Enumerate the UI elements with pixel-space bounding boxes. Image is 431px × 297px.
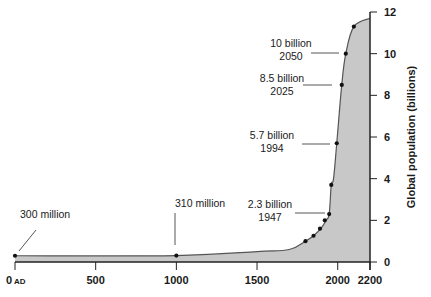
x-tick-label: 500 — [87, 274, 105, 286]
population-chart: 0AD5001000150020002200024681012 300 mill… — [0, 0, 431, 297]
annotation-year: 1947 — [258, 211, 282, 223]
x-tick-suffix: AD — [14, 277, 26, 286]
data-point — [318, 227, 322, 231]
data-point — [323, 218, 327, 222]
x-tick-label: 1500 — [245, 274, 269, 286]
y-tick-label: 10 — [384, 48, 396, 60]
y-tick-label: 4 — [384, 173, 391, 185]
data-point — [311, 234, 315, 238]
annotation-value: 310 million — [175, 197, 225, 209]
data-point — [335, 141, 339, 145]
area-fill — [15, 18, 370, 262]
data-point — [13, 254, 17, 258]
annotation-year: 2025 — [270, 85, 294, 97]
y-tick-label: 12 — [384, 6, 396, 18]
annotation-value: 300 million — [20, 208, 70, 220]
x-tick-label: 2200 — [358, 274, 382, 286]
data-point — [303, 239, 307, 243]
y-tick-label: 0 — [384, 256, 390, 268]
y-tick-label: 8 — [384, 89, 390, 101]
x-tick-label: 0 — [6, 274, 12, 286]
data-point — [344, 52, 348, 56]
annotation-year: 1994 — [260, 142, 284, 154]
population-area — [15, 18, 370, 262]
annotation-value: 10 billion — [270, 37, 312, 49]
y-tick-label: 2 — [384, 214, 390, 226]
data-point — [329, 183, 333, 187]
annotation-value: 8.5 billion — [260, 72, 305, 84]
data-markers — [13, 24, 356, 257]
data-point — [174, 253, 178, 257]
population-line — [15, 18, 370, 256]
x-tick-label: 2000 — [325, 274, 349, 286]
data-point — [340, 83, 344, 87]
annotations: 300 million310 million2.3 billion19475.7… — [19, 37, 339, 251]
annotation-value: 5.7 billion — [250, 129, 295, 141]
annotation-year: 2050 — [279, 50, 303, 62]
y-axis-label: Global population (billions) — [405, 65, 417, 208]
data-point — [327, 212, 331, 216]
y-tick-label: 6 — [384, 131, 390, 143]
x-tick-label: 1000 — [164, 274, 188, 286]
data-point — [352, 24, 356, 28]
annotation-value: 2.3 billion — [248, 198, 293, 210]
annotation-leader — [19, 230, 36, 251]
